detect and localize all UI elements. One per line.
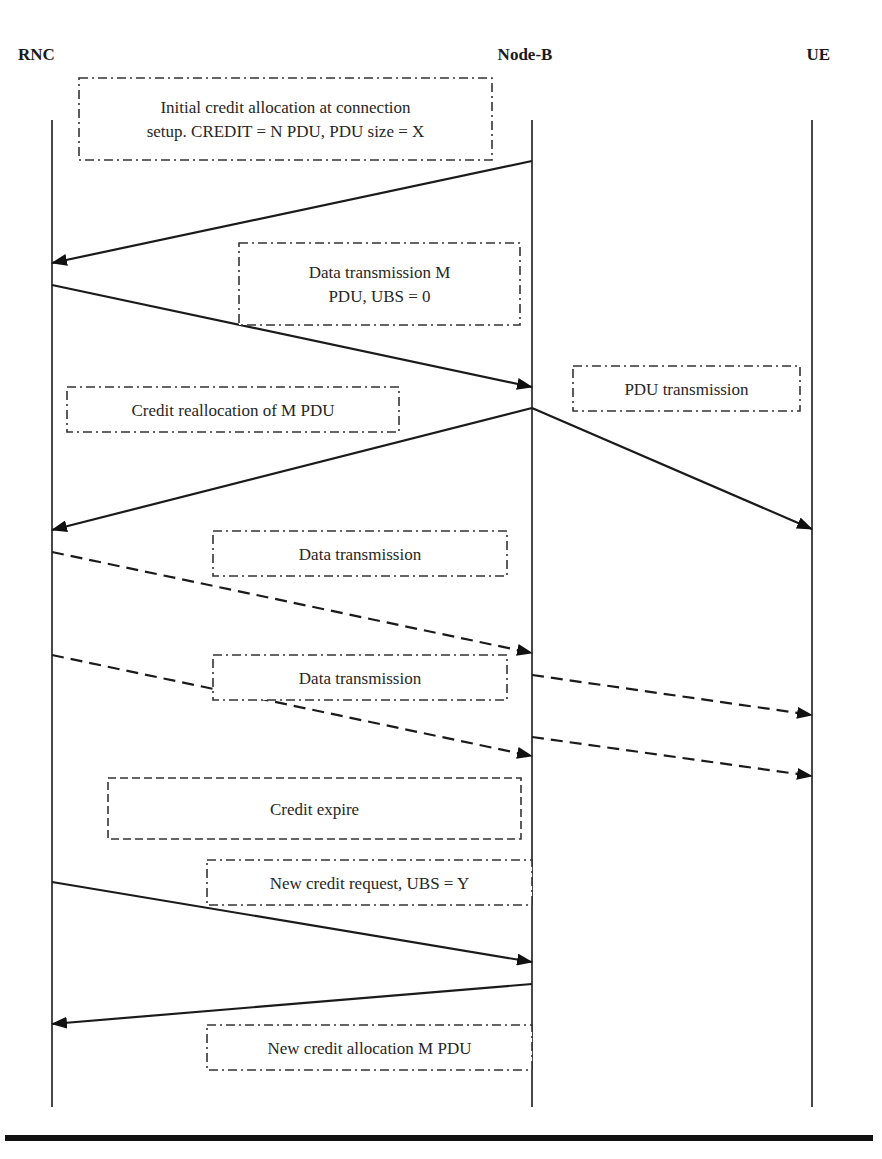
message-arrow-pdu-transmission xyxy=(532,408,812,529)
note-initial-credit-allocation: Initial credit allocation at connections… xyxy=(79,78,492,160)
note-text: Credit expire xyxy=(270,800,359,819)
note-new-credit-allocation: New credit allocation M PDU xyxy=(207,1025,532,1070)
note-data-transmission-1: Data transmission xyxy=(213,531,507,576)
note-pdu-transmission: PDU transmission xyxy=(573,366,800,411)
bottom-rule xyxy=(5,1135,873,1141)
note-text: PDU, UBS = 0 xyxy=(328,287,430,306)
message-arrow-forward-2 xyxy=(532,737,812,776)
note-credit-expire: Credit expire xyxy=(108,778,521,839)
notes: Initial credit allocation at connections… xyxy=(67,78,800,1070)
note-text: Credit reallocation of M PDU xyxy=(131,401,334,420)
entity-label-nodeb: Node-B xyxy=(498,45,553,64)
note-credit-reallocation: Credit reallocation of M PDU xyxy=(67,387,399,432)
message-arrow-forward-1 xyxy=(532,675,812,715)
note-data-transmission-m: Data transmission MPDU, UBS = 0 xyxy=(239,243,520,325)
note-text: New credit request, UBS = Y xyxy=(270,874,470,893)
note-text: PDU transmission xyxy=(624,380,749,399)
sequence-diagram: RNCNode-BUE Initial credit allocation at… xyxy=(0,0,882,1159)
entity-labels: RNCNode-BUE xyxy=(18,45,830,64)
note-text: Data transmission M xyxy=(309,263,451,282)
note-text: New credit allocation M PDU xyxy=(268,1039,472,1058)
note-text: setup. CREDIT = N PDU, PDU size = X xyxy=(147,122,425,141)
entity-label-ue: UE xyxy=(806,45,830,64)
entity-label-rnc: RNC xyxy=(18,45,55,64)
message-arrow-new-credit-allocation xyxy=(52,984,532,1024)
note-data-transmission-2: Data transmission xyxy=(213,655,507,700)
note-box xyxy=(79,78,492,160)
note-text: Initial credit allocation at connection xyxy=(160,98,411,117)
note-text: Data transmission xyxy=(299,545,422,564)
note-box xyxy=(239,243,520,325)
note-text: Data transmission xyxy=(299,669,422,688)
note-new-credit-request: New credit request, UBS = Y xyxy=(207,860,532,905)
